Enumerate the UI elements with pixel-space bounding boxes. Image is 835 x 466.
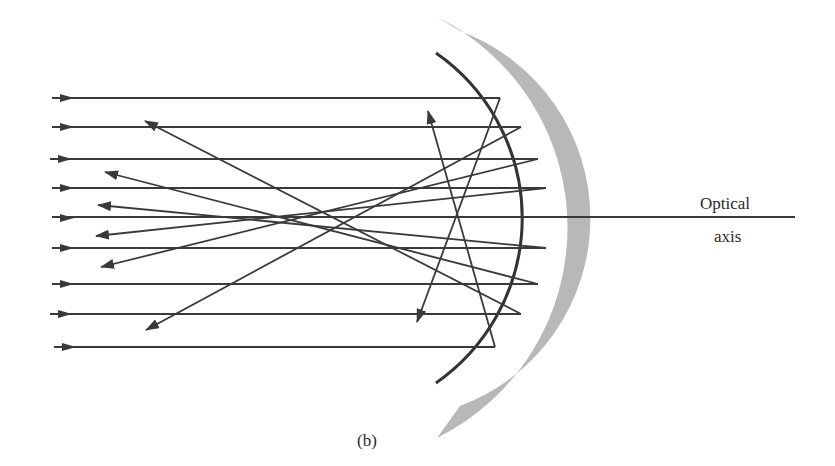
incident-arrowheads — [58, 94, 76, 351]
mirror-surface — [436, 53, 522, 383]
arrow-right-icon — [58, 155, 72, 163]
arrow-right-icon — [60, 94, 74, 102]
reflected-ray — [417, 98, 500, 322]
reflected-rays — [96, 98, 546, 347]
mirror-backing — [437, 17, 590, 438]
concave-mirror-diagram — [0, 0, 835, 466]
arrow-right-icon — [58, 310, 72, 318]
optical-axis-label-line2: axis — [714, 228, 741, 245]
arrow-right-icon — [60, 280, 74, 288]
arrow-right-icon — [60, 123, 74, 131]
optical-axis-label: Optical — [700, 195, 750, 212]
arrow-right-icon — [60, 244, 74, 252]
arrow-right-icon — [62, 343, 76, 351]
figure-caption: (b) — [357, 432, 377, 449]
arrow-right-icon — [60, 214, 74, 222]
arrow-right-icon — [60, 184, 74, 192]
